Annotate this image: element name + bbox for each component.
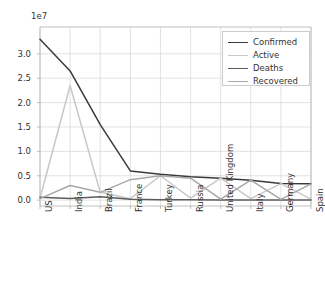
x-tick-label-brazil: Brazil: [104, 188, 114, 212]
x-tick-label-france: France: [134, 184, 144, 212]
y-tick-label: 2.0: [7, 98, 31, 108]
legend-item-confirmed: Confirmed: [223, 36, 309, 49]
legend-swatch-active: [228, 55, 248, 56]
legend-swatch-deaths: [228, 68, 248, 69]
legend-label-confirmed: Confirmed: [253, 38, 297, 47]
x-tick-label-turkey: Turkey: [164, 184, 174, 212]
legend-swatch-confirmed: [228, 42, 248, 43]
x-tick-label-italy: Italy: [255, 194, 265, 212]
x-tick-label-us: US: [44, 200, 54, 212]
x-tick-label-spain: Spain: [315, 188, 325, 212]
y-tick-label: 0.0: [7, 195, 31, 205]
legend-label-recovered: Recovered: [253, 77, 298, 86]
legend-label-deaths: Deaths: [253, 64, 283, 73]
y-tick-label: 1.5: [7, 122, 31, 132]
y-tick-label: 3.0: [7, 49, 31, 59]
y-tick-label: 2.5: [7, 73, 31, 83]
legend-label-active: Active: [253, 51, 279, 60]
chart-legend: ConfirmedActiveDeathsRecovered: [222, 31, 310, 86]
y-tick-label: 1.0: [7, 146, 31, 156]
legend-swatch-recovered: [228, 81, 248, 82]
x-tick-label-germany: Germany: [285, 173, 295, 212]
x-tick-label-russia: Russia: [195, 185, 205, 212]
x-tick-label-india: India: [74, 191, 84, 212]
legend-item-deaths: Deaths: [223, 62, 309, 75]
y-tick-label: 0.5: [7, 171, 31, 181]
legend-item-recovered: Recovered: [223, 75, 309, 88]
x-tick-label-united-kingdom: United Kingdom: [225, 144, 235, 212]
legend-item-active: Active: [223, 49, 309, 62]
y-axis-offset-text: 1e7: [31, 11, 47, 21]
